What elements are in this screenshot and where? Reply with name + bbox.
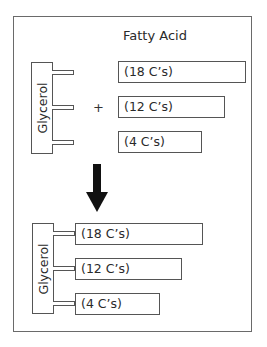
ester-bond-2	[53, 266, 75, 271]
glycerol-bond-stub-1	[52, 70, 74, 75]
down-arrow-icon	[85, 164, 109, 214]
glycerol-label: Glycerol	[36, 243, 51, 294]
glycerol-bond-stub-2	[52, 105, 74, 110]
bound-fatty-acid-18c: (18 C’s)	[75, 223, 203, 245]
fatty-acid-12c: (12 C’s)	[118, 96, 225, 118]
fatty-acid-heading: Fatty Acid	[123, 28, 187, 43]
glycerol-product: Glycerol	[32, 223, 54, 314]
plus-sign: +	[93, 100, 104, 115]
glycerol-bond-stub-3	[52, 140, 74, 145]
ester-bond-1	[53, 231, 75, 236]
fatty-acid-4c: (4 C’s)	[118, 131, 202, 153]
ester-bond-3	[53, 301, 75, 306]
bound-fatty-acid-4c: (4 C’s)	[75, 293, 160, 315]
bound-fatty-acid-12c: (12 C’s)	[75, 258, 182, 280]
fatty-acid-18c: (18 C’s)	[118, 61, 246, 83]
glycerol-reactant: Glycerol	[31, 62, 53, 154]
glycerol-label: Glycerol	[35, 82, 50, 133]
